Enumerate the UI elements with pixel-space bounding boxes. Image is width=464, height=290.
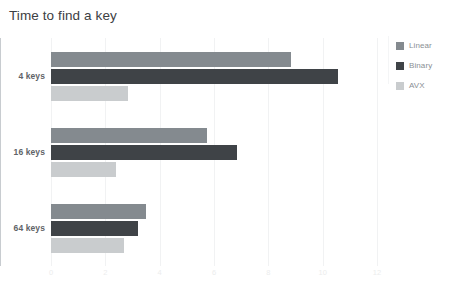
- legend-label: Linear: [409, 41, 432, 50]
- legend-divider: [388, 36, 389, 84]
- chart-legend: LinearBinaryAVX: [396, 38, 462, 98]
- legend-swatch-icon: [396, 82, 404, 90]
- chart-title: Time to find a key: [9, 8, 117, 23]
- legend-label: Binary: [409, 61, 432, 70]
- bar-binary-64-keys: [51, 221, 138, 236]
- bar-linear-64-keys: [51, 204, 146, 219]
- category-axis-labels: 4 keys16 keys64 keys: [0, 38, 45, 266]
- bar-chart: Time to find a key 4 keys16 keys64 keys …: [0, 0, 464, 290]
- legend-swatch-icon: [396, 62, 404, 70]
- bar-avx-16-keys: [51, 162, 116, 177]
- x-tick-label: 10: [318, 268, 326, 277]
- bar-linear-16-keys: [51, 128, 207, 143]
- legend-item-linear[interactable]: Linear: [396, 38, 462, 53]
- legend-item-binary[interactable]: Binary: [396, 58, 462, 73]
- category-label: 64 keys: [14, 223, 45, 233]
- x-tick-label: 8: [266, 268, 270, 277]
- x-tick-label: 4: [158, 268, 162, 277]
- legend-swatch-icon: [396, 42, 404, 50]
- x-tick-label: 0: [49, 268, 53, 277]
- bar-avx-4-keys: [51, 86, 128, 101]
- value-axis-labels: 024681012: [51, 268, 377, 282]
- bar-binary-16-keys: [51, 145, 237, 160]
- x-tick-label: 6: [212, 268, 216, 277]
- bar-avx-64-keys: [51, 238, 124, 253]
- category-label: 16 keys: [14, 147, 45, 157]
- bar-binary-4-keys: [51, 69, 338, 84]
- category-label: 4 keys: [18, 71, 45, 81]
- gridline-12: [377, 38, 378, 266]
- plot-area: [51, 38, 377, 266]
- legend-item-avx[interactable]: AVX: [396, 78, 462, 93]
- x-tick-label: 12: [373, 268, 381, 277]
- x-tick-label: 2: [103, 268, 107, 277]
- bar-linear-4-keys: [51, 52, 291, 67]
- legend-label: AVX: [409, 81, 425, 90]
